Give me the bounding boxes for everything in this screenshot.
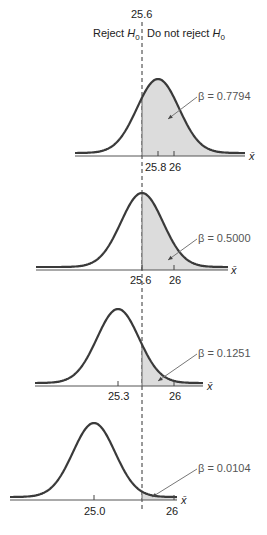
tick-label-4a: 25.0 xyxy=(84,506,105,517)
x-axis-label-4: x̄ xyxy=(181,495,187,506)
beta-label-4: β = 0.0104 xyxy=(198,463,251,474)
reject-text: Reject xyxy=(93,27,127,39)
normal-curve xyxy=(35,309,203,383)
do-not-reject-text: Do not reject xyxy=(147,27,212,39)
tick-label-2b: 26 xyxy=(169,275,181,286)
tick-label-1b: 26 xyxy=(169,162,181,173)
normal-curve xyxy=(36,193,228,267)
critical-value-label: 25.6 xyxy=(131,9,152,20)
beta-label-1: β = 0.7794 xyxy=(198,91,251,102)
beta-arrow xyxy=(158,354,197,381)
beta-arrow xyxy=(152,469,197,497)
beta-error-chart xyxy=(0,0,267,535)
beta-label-2: β = 0.5000 xyxy=(198,233,251,244)
reject-region-label: Reject H0 xyxy=(93,28,140,42)
tick-label-4b: 26 xyxy=(166,506,178,517)
do-not-reject-region-label: Do not reject H0 xyxy=(147,28,225,42)
normal-curve xyxy=(10,423,177,497)
tick-label-3a: 25.3 xyxy=(108,391,129,402)
h-subscript: 0 xyxy=(135,33,139,42)
x-axis-label-3: x̄ xyxy=(207,381,213,392)
h-symbol: H xyxy=(127,27,135,39)
x-axis-label-1: x̄ xyxy=(249,151,255,162)
beta-label-3: β = 0.1251 xyxy=(198,348,251,359)
x-axis-label-2: x̄ xyxy=(231,265,237,276)
tick-label-1a: 25.8 xyxy=(145,162,166,173)
tick-label-2a: 25.6 xyxy=(130,275,151,286)
h-subscript: 0 xyxy=(220,33,224,42)
tick-label-3b: 26 xyxy=(169,391,181,402)
